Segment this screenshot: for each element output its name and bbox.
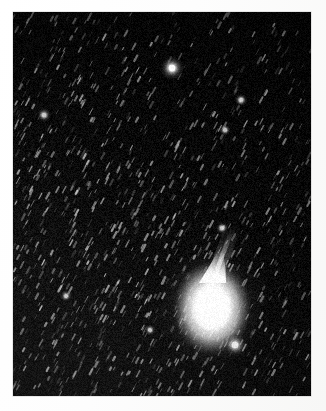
photo-print: [13, 12, 311, 396]
photograph-page: [0, 0, 326, 411]
night-sky-image: [13, 12, 311, 396]
caption-zone: [13, 382, 311, 396]
